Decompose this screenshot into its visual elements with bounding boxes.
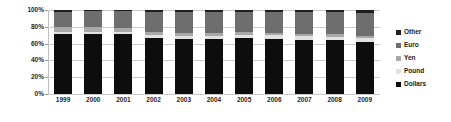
bar-segment-euro[interactable] (145, 12, 163, 32)
bar-segment-euro[interactable] (235, 12, 253, 32)
legend-item-yen[interactable]: Yen (396, 52, 451, 65)
legend-label: Yen (404, 55, 416, 62)
legend-swatch-icon (396, 56, 401, 61)
legend-swatch-icon (396, 30, 401, 35)
y-axis-tick-label: 40% (31, 57, 44, 64)
y-axis-tick (45, 94, 48, 95)
y-axis: 0%20%40%60%80%100% (0, 10, 44, 94)
gridline (48, 94, 380, 95)
bar-segment-euro[interactable] (205, 12, 223, 33)
x-axis-tick-label: 2002 (139, 97, 169, 113)
bar-group[interactable] (175, 10, 193, 94)
y-axis-tick-label: 100% (27, 7, 44, 14)
bar-segment-dollars[interactable] (326, 40, 344, 94)
chart-legend: OtherEuroYenPoundDollars (396, 26, 451, 91)
x-axis-tick-label: 2003 (169, 97, 199, 113)
y-axis-tick-label: 20% (31, 74, 44, 81)
legend-swatch-icon (396, 43, 401, 48)
bar-group[interactable] (326, 10, 344, 94)
x-axis-tick-label: 2001 (108, 97, 138, 113)
x-axis-tick-label: 2006 (259, 97, 289, 113)
bar-group[interactable] (84, 10, 102, 94)
bar-group[interactable] (114, 10, 132, 94)
bar-group[interactable] (54, 10, 72, 94)
x-axis-tick-label: 2009 (350, 97, 380, 113)
bar-group[interactable] (295, 10, 313, 94)
bar-segment-euro[interactable] (265, 12, 283, 33)
bar-segment-euro[interactable] (295, 12, 313, 34)
legend-label: Dollars (404, 81, 426, 88)
bar-segment-dollars[interactable] (145, 38, 163, 94)
legend-label: Other (404, 29, 421, 36)
bar-group[interactable] (356, 10, 374, 94)
legend-swatch-icon (396, 69, 401, 74)
bar-group[interactable] (145, 10, 163, 94)
bar-segment-dollars[interactable] (84, 34, 102, 94)
bar-segment-euro[interactable] (326, 12, 344, 34)
y-axis-tick-label: 0% (35, 91, 44, 98)
legend-item-dollars[interactable]: Dollars (396, 78, 451, 91)
bar-segment-dollars[interactable] (114, 34, 132, 94)
y-axis-tick-label: 80% (31, 24, 44, 31)
bar-segment-dollars[interactable] (205, 39, 223, 94)
plot-area (48, 10, 380, 94)
bar-segment-dollars[interactable] (265, 39, 283, 94)
bar-segment-euro[interactable] (356, 13, 374, 36)
x-axis-tick-label: 2004 (199, 97, 229, 113)
legend-label: Pound (404, 68, 424, 75)
bar-segment-dollars[interactable] (235, 38, 253, 94)
legend-swatch-icon (396, 82, 401, 87)
bar-segment-euro[interactable] (114, 11, 132, 27)
x-axis-tick-label: 2000 (78, 97, 108, 113)
bar-group[interactable] (235, 10, 253, 94)
legend-label: Euro (404, 42, 419, 49)
y-axis-tick-label: 60% (31, 40, 44, 47)
x-axis-tick-label: 2005 (229, 97, 259, 113)
x-axis-tick-label: 2007 (289, 97, 319, 113)
bar-segment-dollars[interactable] (175, 39, 193, 94)
bar-segment-dollars[interactable] (356, 42, 374, 94)
bar-segment-dollars[interactable] (295, 40, 313, 94)
bar-segment-euro[interactable] (84, 11, 102, 26)
bar-segment-euro[interactable] (54, 12, 72, 27)
stacked-bar-chart: 0%20%40%60%80%100% 199920002001200220032… (0, 0, 451, 122)
bar-segment-dollars[interactable] (54, 34, 72, 94)
x-axis: 1999200020012002200320042005200620072008… (48, 97, 380, 113)
bar-group[interactable] (205, 10, 223, 94)
bar-segment-euro[interactable] (175, 12, 193, 33)
legend-item-other[interactable]: Other (396, 26, 451, 39)
bars-layer (48, 10, 380, 94)
legend-item-euro[interactable]: Euro (396, 39, 451, 52)
legend-item-pound[interactable]: Pound (396, 65, 451, 78)
bar-group[interactable] (265, 10, 283, 94)
x-axis-tick-label: 1999 (48, 97, 78, 113)
x-axis-tick-label: 2008 (320, 97, 350, 113)
